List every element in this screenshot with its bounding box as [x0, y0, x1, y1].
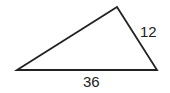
right-side-label: 12 — [140, 23, 157, 40]
base-label: 36 — [83, 73, 100, 90]
triangle — [17, 7, 157, 70]
triangle-diagram: 12 36 — [0, 0, 170, 93]
